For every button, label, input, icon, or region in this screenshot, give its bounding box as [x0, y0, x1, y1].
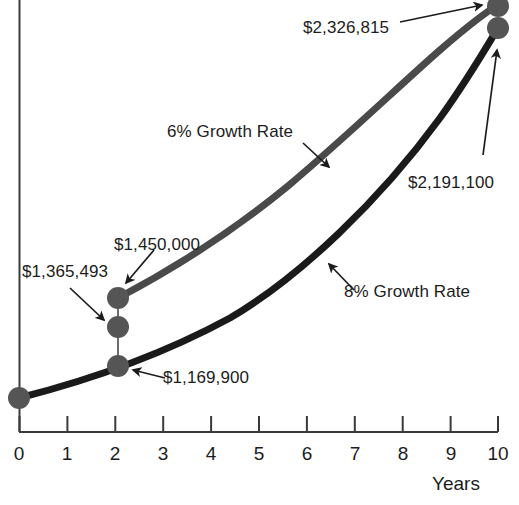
eight-percent-end-marker	[487, 17, 509, 39]
leader-2191100	[483, 50, 497, 155]
x-tick-label-6: 6	[302, 443, 313, 465]
six-percent-end-marker	[487, 0, 509, 17]
leader-1169900	[133, 370, 165, 378]
label-2326815: $2,326,815	[303, 18, 389, 38]
x-tick-label-7: 7	[350, 443, 361, 465]
x-tick-label-2: 2	[110, 443, 121, 465]
origin-marker	[8, 387, 30, 409]
x-tick-label-10: 10	[487, 443, 508, 465]
x-axis-ticks	[20, 416, 499, 432]
x-tick-label-0: 0	[14, 443, 25, 465]
label-1365493: $1,365,493	[22, 262, 108, 282]
mid-marker	[107, 316, 129, 338]
growth-rate-line-chart: $2,326,815 $2,191,100 $1,450,000 $1,365,…	[0, 0, 519, 505]
label-8-percent-growth-rate: 8% Growth Rate	[344, 282, 470, 302]
label-1450000: $1,450,000	[114, 235, 200, 255]
x-tick-label-5: 5	[254, 443, 265, 465]
x-tick-label-9: 9	[446, 443, 457, 465]
eight-percent-year2-marker	[107, 355, 129, 377]
label-1169900: $1,169,900	[163, 368, 249, 388]
six-percent-start-marker	[107, 287, 129, 309]
x-axis-title: Years	[432, 473, 480, 495]
x-tick-label-3: 3	[158, 443, 169, 465]
leader-1365493	[70, 288, 104, 320]
leader-2326815	[400, 5, 482, 22]
x-tick-label-8: 8	[398, 443, 409, 465]
x-tick-label-1: 1	[62, 443, 73, 465]
label-6-percent-growth-rate: 6% Growth Rate	[167, 122, 293, 142]
x-tick-label-4: 4	[206, 443, 217, 465]
label-2191100: $2,191,100	[408, 173, 494, 193]
chart-canvas	[0, 0, 519, 505]
